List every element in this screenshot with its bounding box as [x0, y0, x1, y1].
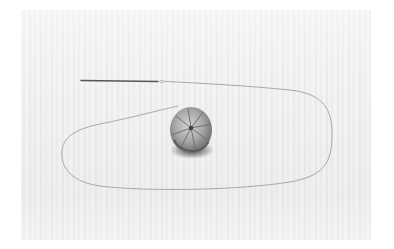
fabric-ball [170, 107, 212, 153]
photo-scene [0, 0, 394, 249]
needle [81, 81, 165, 83]
